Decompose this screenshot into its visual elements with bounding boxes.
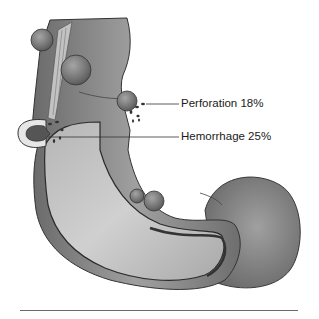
colon-diverticula-illustration [0, 0, 319, 319]
colon-wall [32, 18, 240, 289]
bottom-rule [20, 310, 298, 311]
perforation-label: Perforation 18% [181, 97, 263, 109]
hemorrhage-label: Hemorrhage 25% [181, 130, 271, 142]
